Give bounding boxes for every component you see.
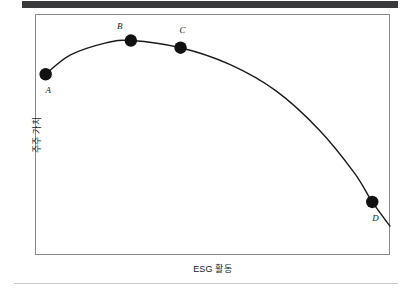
point-label-d: D <box>372 213 379 223</box>
data-point-d <box>366 196 378 208</box>
point-label-b: B <box>117 21 123 31</box>
chart-canvas <box>0 0 412 293</box>
data-point-markers <box>39 34 378 208</box>
y-axis-title: 주주 가치 <box>30 75 43 195</box>
point-label-a: A <box>46 85 52 95</box>
figure-container: 주주 가치 ESG 활동 ABCD <box>0 0 412 293</box>
x-axis-title: ESG 활동 <box>35 262 390 275</box>
value-curve <box>46 40 390 226</box>
point-label-c: C <box>180 25 186 35</box>
data-point-b <box>125 34 137 46</box>
footer-divider <box>14 283 398 284</box>
curve-group <box>46 40 390 226</box>
data-point-c <box>174 42 186 54</box>
